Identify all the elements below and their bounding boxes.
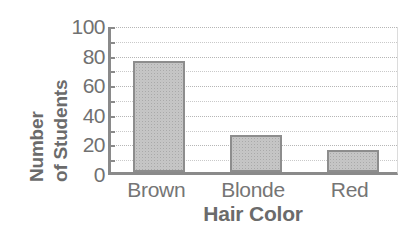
x-axis-tick-label-brown: Brown [108,178,205,202]
bar-brown [133,61,185,172]
plot-area [108,27,398,175]
bars-group [111,27,397,172]
x-axis-tick-labels: BrownBlondeRed [108,178,398,204]
x-axis-title: Hair Color [108,202,398,226]
bar-blonde [230,135,282,172]
y-axis-tick-label: 80 [59,46,105,67]
y-axis-tick-label: 100 [59,16,105,37]
bar-chart-figure: Number of Students 100806040200 BrownBlo… [0,0,416,231]
y-axis-tick-label: 0 [59,164,105,185]
x-axis-tick-label-blonde: Blonde [205,178,302,202]
x-axis-tick-label-red: Red [301,178,398,202]
y-axis-title-line-1: Number [26,111,48,182]
y-axis-title: Number of Students [0,0,62,190]
bar-red [327,150,379,172]
y-axis-tick-label: 60 [59,75,105,96]
y-axis-tick-labels: 100806040200 [57,0,105,190]
y-axis-tick-label: 20 [59,134,105,155]
y-axis-tick-label: 40 [59,105,105,126]
